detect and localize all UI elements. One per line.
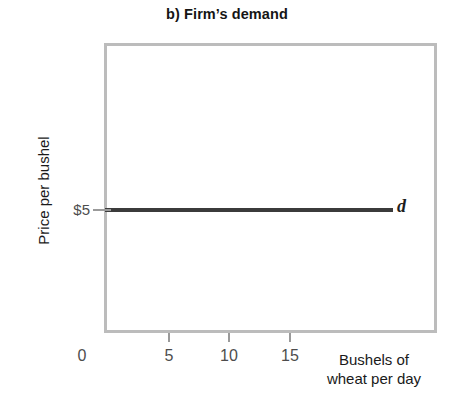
- x-axis-title-line-1: Bushels of: [299, 350, 449, 369]
- x-axis-title-line-2: wheat per day: [299, 369, 449, 388]
- chart-figure: b) Firm’s demand d $5 Price per bushel 0…: [0, 0, 454, 408]
- x-axis-tick-label-0: 0: [67, 347, 97, 365]
- x-axis-tick-5: [168, 333, 170, 342]
- x-axis-tick-10: [228, 333, 230, 342]
- chart-title: b) Firm’s demand: [0, 6, 454, 22]
- y-axis-tick-5: [93, 209, 111, 211]
- x-axis-tick-15: [289, 333, 291, 342]
- x-axis-tick-label-5: 5: [154, 347, 184, 365]
- plot-area-frame: [104, 43, 437, 333]
- x-axis-title: Bushels of wheat per day: [299, 350, 449, 388]
- y-axis-title: Price per bushel: [35, 106, 52, 276]
- x-axis-tick-label-10: 10: [214, 347, 244, 365]
- demand-curve-label: d: [397, 196, 406, 217]
- demand-curve-line: [105, 208, 393, 212]
